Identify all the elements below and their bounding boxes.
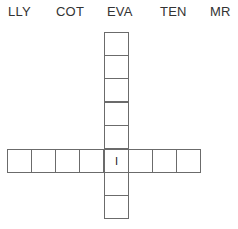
- horizontal-cell-4[interactable]: [79, 149, 104, 173]
- horizontal-cell-2[interactable]: [31, 149, 56, 173]
- crossword-grid: I: [0, 0, 238, 229]
- vertical-cell-8[interactable]: [104, 195, 129, 219]
- horizontal-cell-8[interactable]: [176, 149, 201, 173]
- horizontal-cell-7[interactable]: [152, 149, 177, 173]
- vertical-cell-4[interactable]: [104, 102, 129, 126]
- horizontal-cell-6[interactable]: [128, 149, 153, 173]
- vertical-cell-2[interactable]: [104, 55, 129, 79]
- intersection-cell[interactable]: I: [104, 149, 129, 173]
- vertical-cell-5[interactable]: [104, 125, 129, 149]
- vertical-cell-3[interactable]: [104, 78, 129, 102]
- vertical-cell-7[interactable]: [104, 172, 129, 196]
- horizontal-cell-1[interactable]: [7, 149, 32, 173]
- horizontal-cell-3[interactable]: [55, 149, 80, 173]
- vertical-cell-1[interactable]: [104, 32, 129, 56]
